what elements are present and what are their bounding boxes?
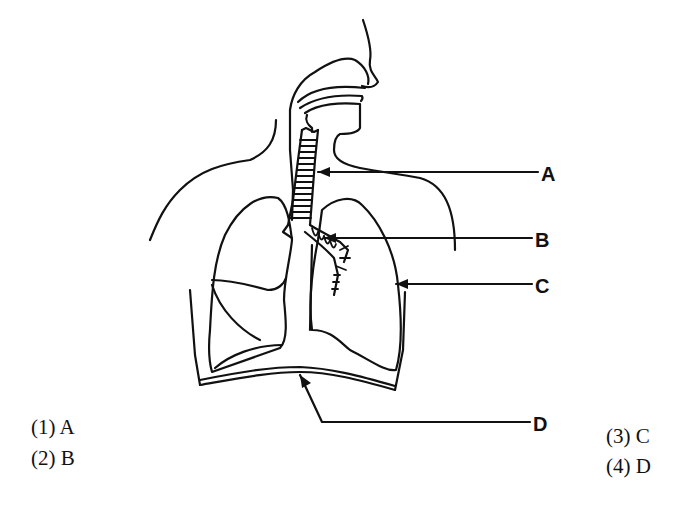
option-2-number: (2) (31, 446, 56, 470)
option-3[interactable]: (3) C (606, 426, 650, 447)
option-4-text: D (636, 454, 651, 478)
respiratory-system-diagram (0, 0, 692, 506)
option-4-number: (4) (606, 454, 631, 478)
left-lung-fissure-horizontal (212, 278, 286, 290)
label-D: D (533, 414, 547, 434)
option-2-text: B (61, 446, 75, 470)
trachea-right (310, 130, 318, 225)
label-C: C (535, 276, 549, 296)
face-outline (362, 20, 378, 87)
left-lung-fissure-oblique (212, 285, 260, 340)
option-1-text: A (60, 415, 75, 439)
option-2[interactable]: (2) B (31, 448, 75, 469)
palate-upper (298, 87, 365, 102)
option-1-number: (1) (31, 415, 56, 439)
option-1[interactable]: (1) A (31, 417, 75, 438)
option-3-text: C (636, 424, 650, 448)
option-4[interactable]: (4) D (606, 456, 651, 477)
label-A: A (541, 164, 555, 184)
right-lung (310, 199, 400, 370)
nasal-cavity (290, 59, 368, 110)
left-shoulder (150, 120, 276, 240)
trachea-top (302, 128, 318, 132)
palate-lower (300, 96, 362, 109)
arrowhead-A (318, 167, 330, 177)
left-lung-lower (215, 345, 282, 368)
label-B: B (535, 230, 549, 250)
arrowhead-D (300, 375, 311, 388)
ribcage-left (190, 290, 200, 385)
option-3-number: (3) (606, 424, 631, 448)
pointer-D (300, 375, 530, 422)
